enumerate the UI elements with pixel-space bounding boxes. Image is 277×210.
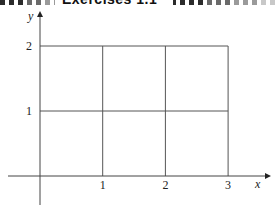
y-tick-label: 1 — [26, 104, 32, 118]
x-tick-label: 2 — [162, 178, 168, 192]
coordinate-grid-diagram: y x 12312 — [0, 0, 277, 210]
x-axis-label: x — [254, 177, 261, 191]
y-axis-label: y — [27, 9, 34, 23]
tick-labels: 12312 — [26, 39, 231, 192]
grid-lines — [40, 46, 228, 176]
x-tick-label: 3 — [225, 178, 231, 192]
x-tick-label: 1 — [100, 178, 106, 192]
y-tick-label: 2 — [26, 39, 32, 53]
